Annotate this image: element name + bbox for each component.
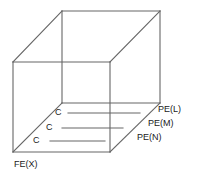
fe-label-x: FE(X) (14, 160, 38, 169)
pe-label-m: PE(M) (148, 119, 174, 128)
c-label-3: C (33, 136, 40, 145)
cube-edge-connector-top-right (110, 11, 160, 62)
c-label-2: C (46, 123, 53, 132)
pe-label-l: PE(L) (158, 105, 181, 114)
c-label-1: C (55, 108, 62, 117)
pe-label-n: PE(N) (137, 133, 162, 142)
diagram-canvas: C C C PE(L) PE(M) PE(N) FE(X) (0, 0, 197, 187)
cube-edge-connector-top-left (13, 11, 62, 62)
